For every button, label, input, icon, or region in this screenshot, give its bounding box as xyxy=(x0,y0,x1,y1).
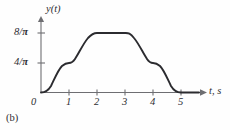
x-axis-arrowhead xyxy=(200,89,207,95)
x-tick-label-2: 2 xyxy=(94,97,99,108)
x-tick-label-1: 1 xyxy=(66,97,71,108)
x-axis-title: t, s xyxy=(209,86,221,97)
figure-panel: y(t) t, s 8/π 4/π 0 1 2 3 4 5 (b) xyxy=(0,0,230,130)
data-curve-y-of-t xyxy=(41,33,199,93)
origin-label: 0 xyxy=(31,97,36,108)
y-tick-label-4-over-pi: 4/π xyxy=(14,57,28,68)
panel-caption: (b) xyxy=(6,113,18,124)
y-axis-arrowhead xyxy=(38,16,44,22)
y-tick-8-denominator: π xyxy=(22,26,28,37)
x-tick-label-5: 5 xyxy=(178,97,183,108)
x-tick-label-4: 4 xyxy=(150,97,155,108)
x-tick-label-3: 3 xyxy=(122,97,127,108)
y-tick-4-denominator: π xyxy=(22,56,28,67)
y-tick-label-8-over-pi: 8/π xyxy=(14,27,28,38)
plot-canvas xyxy=(0,0,230,130)
y-axis-title: y(t) xyxy=(46,4,61,15)
